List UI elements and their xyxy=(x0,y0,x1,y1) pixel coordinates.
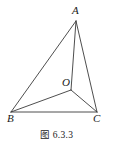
edge-AB xyxy=(11,21,76,112)
vertex-label-o: O xyxy=(62,77,70,88)
edge-AO xyxy=(71,21,76,90)
vertex-label-a: A xyxy=(72,5,79,16)
edge-AC xyxy=(76,21,97,112)
vertex-label-b: B xyxy=(7,113,14,124)
figure-caption: 图 6.3.3 xyxy=(0,129,113,142)
edge-BO xyxy=(11,90,71,112)
vertex-label-c: C xyxy=(93,113,100,124)
figure-container: A B C O 图 6.3.3 xyxy=(0,0,113,148)
geometry-diagram xyxy=(0,0,113,130)
